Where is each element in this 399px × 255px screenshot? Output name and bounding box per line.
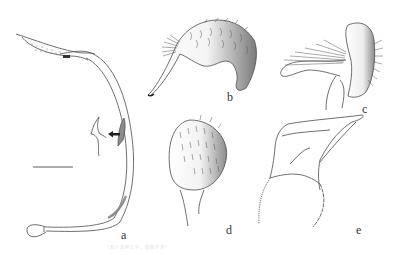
figure-caption: （图片说明文字，模糊不清）: [105, 244, 295, 250]
panel-e-drawing: [259, 115, 363, 227]
panel-b-drawing: [148, 18, 256, 96]
panel-label-c: c: [362, 103, 367, 115]
panel-label-b: b: [227, 91, 233, 103]
panel-a-inset-spine: [91, 117, 106, 156]
panel-label-d: d: [226, 224, 232, 236]
panel-label-e: e: [356, 224, 361, 236]
tooth-mark: [63, 55, 70, 58]
illustration-plate: [0, 0, 399, 255]
panel-label-a: a: [121, 229, 126, 241]
panel-d-drawing: [169, 115, 227, 226]
panel-c-drawing: [281, 23, 383, 110]
